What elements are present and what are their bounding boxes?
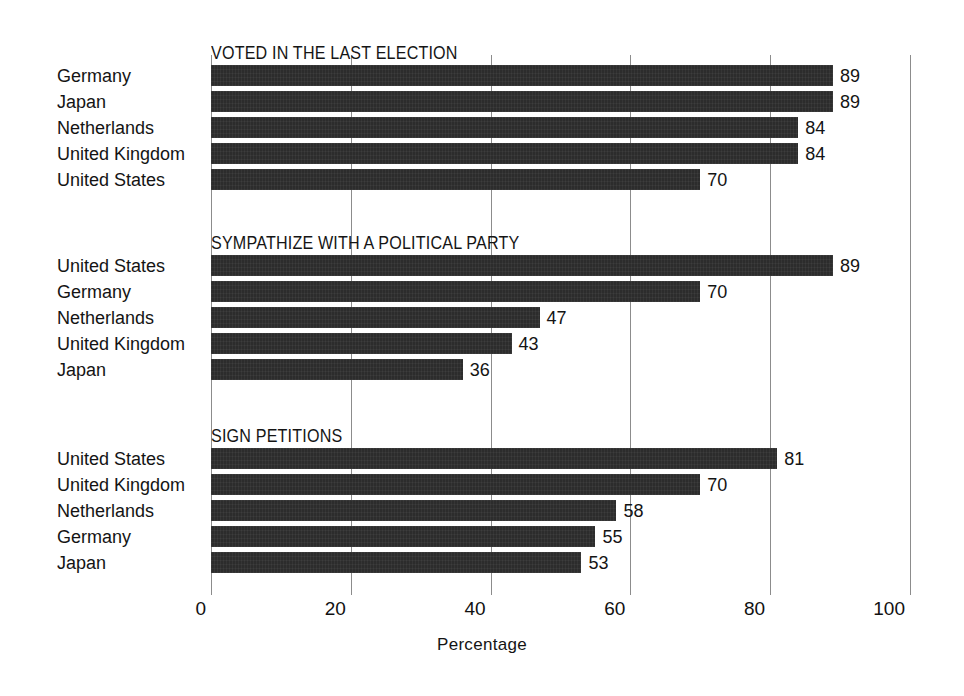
bar-row: 47 xyxy=(211,307,910,328)
axis-tick-label: 40 xyxy=(464,599,490,618)
axis-tick xyxy=(351,585,352,595)
bar xyxy=(211,65,833,86)
bar-row: 36 xyxy=(211,359,910,380)
bar-row: 70 xyxy=(211,169,910,190)
bar-value-label: 89 xyxy=(840,67,860,85)
bar-row: 58 xyxy=(211,500,910,521)
bar-group: SIGN PETITIONS8170585553 xyxy=(211,448,910,578)
bar xyxy=(211,281,700,302)
bar-value-label: 55 xyxy=(602,528,622,546)
category-label: Germany xyxy=(57,528,131,546)
axis-tick-label: 80 xyxy=(744,599,770,618)
bar-group: VOTED IN THE LAST ELECTION8989848470 xyxy=(211,65,910,195)
axis-tick-label: 0 xyxy=(195,599,211,618)
bar xyxy=(211,448,777,469)
category-label: United Kingdom xyxy=(57,145,185,163)
category-label: Netherlands xyxy=(57,502,154,520)
bar-value-label: 89 xyxy=(840,93,860,111)
category-label: Japan xyxy=(57,361,106,379)
category-label: Japan xyxy=(57,93,106,111)
category-label: Germany xyxy=(57,67,131,85)
bar-row: 84 xyxy=(211,117,910,138)
bar-value-label: 53 xyxy=(588,554,608,572)
group-title: VOTED IN THE LAST ELECTION xyxy=(211,43,458,64)
bar-row: 81 xyxy=(211,448,910,469)
category-label: United Kingdom xyxy=(57,335,185,353)
bar xyxy=(211,474,700,495)
bar-row: 55 xyxy=(211,526,910,547)
bar xyxy=(211,117,798,138)
bar-row: 89 xyxy=(211,255,910,276)
category-label: Japan xyxy=(57,554,106,572)
bar xyxy=(211,143,798,164)
group-title: SYMPATHIZE WITH A POLITICAL PARTY xyxy=(211,233,519,254)
category-label: United States xyxy=(57,171,165,189)
axis-tick xyxy=(910,585,911,595)
bar-value-label: 36 xyxy=(470,361,490,379)
category-label: United States xyxy=(57,450,165,468)
bar-value-label: 89 xyxy=(840,257,860,275)
bar-value-label: 58 xyxy=(623,502,643,520)
bar xyxy=(211,333,512,354)
axis-tick xyxy=(211,585,212,595)
axis-tick xyxy=(491,585,492,595)
category-label: Netherlands xyxy=(57,309,154,327)
bar-value-label: 43 xyxy=(519,335,539,353)
bar-value-label: 47 xyxy=(547,309,567,327)
bar xyxy=(211,307,540,328)
axis-tick xyxy=(630,585,631,595)
bar-row: 70 xyxy=(211,281,910,302)
bar-value-label: 84 xyxy=(805,119,825,137)
x-axis-title: Percentage xyxy=(0,635,964,655)
bar xyxy=(211,359,463,380)
bar-row: 53 xyxy=(211,552,910,573)
axis-tick-label: 100 xyxy=(873,599,910,618)
bar-chart: VOTED IN THE LAST ELECTION8989848470SYMP… xyxy=(0,0,964,696)
bar-row: 89 xyxy=(211,65,910,86)
bar-row: 43 xyxy=(211,333,910,354)
axis-tick xyxy=(770,585,771,595)
bar xyxy=(211,169,700,190)
bar-row: 70 xyxy=(211,474,910,495)
bar-value-label: 70 xyxy=(707,283,727,301)
bar-group: SYMPATHIZE WITH A POLITICAL PARTY8970474… xyxy=(211,255,910,385)
bar-value-label: 84 xyxy=(805,145,825,163)
bar xyxy=(211,255,833,276)
group-title: SIGN PETITIONS xyxy=(211,426,342,447)
category-label: United Kingdom xyxy=(57,476,185,494)
category-label: Netherlands xyxy=(57,119,154,137)
bar-value-label: 81 xyxy=(784,450,804,468)
category-label: United States xyxy=(57,257,165,275)
axis-tick-label: 20 xyxy=(325,599,351,618)
bar xyxy=(211,526,595,547)
bar xyxy=(211,500,616,521)
gridline xyxy=(910,55,911,585)
bar xyxy=(211,552,581,573)
plot-area: VOTED IN THE LAST ELECTION8989848470SYMP… xyxy=(211,55,910,585)
bar-row: 84 xyxy=(211,143,910,164)
category-label: Germany xyxy=(57,283,131,301)
bar xyxy=(211,91,833,112)
bar-value-label: 70 xyxy=(707,171,727,189)
bar-value-label: 70 xyxy=(707,476,727,494)
bar-row: 89 xyxy=(211,91,910,112)
axis-tick-label: 60 xyxy=(604,599,630,618)
